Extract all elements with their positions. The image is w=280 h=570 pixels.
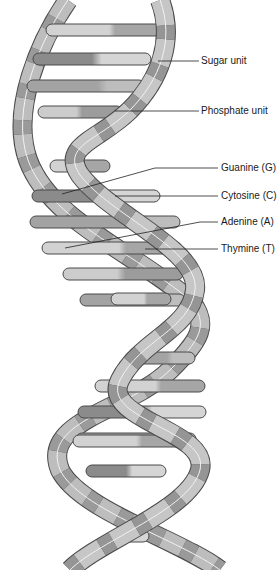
label-sugar-unit: Sugar unit — [201, 55, 247, 67]
label-cytosine: Cytosine (C) — [221, 190, 277, 202]
dna-helix-graphic — [0, 0, 280, 570]
label-adenine: Adenine (A) — [221, 216, 274, 228]
label-phosphate-unit: Phosphate unit — [201, 105, 268, 117]
label-guanine: Guanine (G) — [221, 162, 276, 174]
dna-diagram: Sugar unit Phosphate unit Guanine (G) Cy… — [0, 0, 280, 570]
label-thymine: Thymine (T) — [221, 243, 275, 255]
